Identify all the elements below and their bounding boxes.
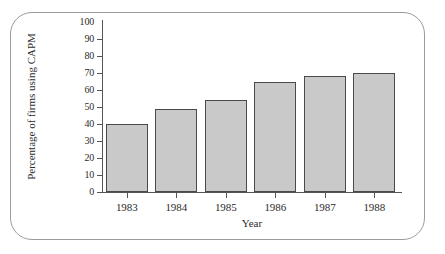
y-axis-tick [97, 124, 103, 125]
x-axis-tick-label: 1987 [302, 201, 348, 213]
y-axis-tick [97, 158, 103, 159]
x-axis-tick-label: 1988 [351, 201, 397, 213]
x-axis-tick [176, 192, 177, 198]
x-axis-title: Year [102, 217, 402, 230]
x-axis-tick [325, 192, 326, 198]
y-axis-tick [97, 192, 103, 193]
y-axis-tick-label-wrap: 100 [66, 17, 94, 27]
x-axis-tick [127, 192, 128, 198]
y-axis-tick-label-wrap: 70 [66, 68, 94, 78]
y-axis-tick [97, 39, 103, 40]
y-axis-tick [97, 107, 103, 108]
y-axis-tick-label: 50 [68, 102, 94, 112]
y-axis-tick-label-wrap: 20 [66, 153, 94, 163]
y-axis-tick [97, 90, 103, 91]
x-axis-tick-label: 1983 [104, 201, 150, 213]
y-axis-tick-label: 90 [68, 34, 94, 44]
y-axis-tick-label: 0 [68, 187, 94, 197]
bar [254, 82, 296, 193]
y-axis-tick-label: 60 [68, 85, 94, 95]
x-axis-tick [275, 192, 276, 198]
x-axis-line [102, 192, 402, 193]
bar [304, 76, 346, 192]
y-axis-tick-label: 10 [68, 170, 94, 180]
x-axis-tick-label: 1984 [153, 201, 199, 213]
y-axis-tick [97, 73, 103, 74]
y-axis-tick-label-wrap: 0 [66, 187, 94, 197]
y-axis-tick [97, 141, 103, 142]
y-axis-tick-label-wrap: 30 [66, 136, 94, 146]
x-axis-tick [226, 192, 227, 198]
y-axis-tick-label: 40 [68, 119, 94, 129]
y-axis-tick-label-wrap: 60 [66, 85, 94, 95]
y-axis-tick [97, 175, 103, 176]
y-axis-tick-label: 80 [68, 51, 94, 61]
bar [205, 100, 247, 192]
y-axis-tick-label: 20 [68, 153, 94, 163]
figure-container: 0102030405060708090100 19831984198519861… [0, 0, 445, 254]
x-axis-tick-label: 1985 [203, 201, 249, 213]
y-axis-tick-label-wrap: 10 [66, 170, 94, 180]
y-axis-tick [97, 56, 103, 57]
y-axis-tick-label: 30 [68, 136, 94, 146]
y-axis-tick-label-wrap: 40 [66, 119, 94, 129]
y-axis-tick-label: 100 [68, 17, 94, 27]
bar [353, 73, 395, 192]
y-axis-tick-label-wrap: 90 [66, 34, 94, 44]
x-axis-tick [374, 192, 375, 198]
x-axis-tick-label: 1986 [252, 201, 298, 213]
y-axis-title: Percentage of firms using CAPM [25, 27, 38, 187]
bar [155, 109, 197, 192]
y-axis-tick-label-wrap: 50 [66, 102, 94, 112]
bar [106, 124, 148, 192]
y-axis-tick-label-wrap: 80 [66, 51, 94, 61]
y-axis-tick-label: 70 [68, 68, 94, 78]
